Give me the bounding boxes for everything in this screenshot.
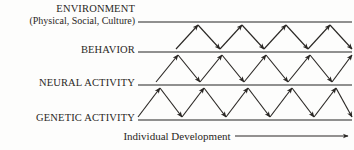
level-label-neural-activity: NEURAL ACTIVITY (39, 77, 135, 89)
arrow-up-environment-behavior-0 (176, 25, 198, 49)
arrow-down-behavior-neural-3 (310, 55, 332, 82)
level-label-environment-sublabel: (Physical, Social, Culture) (29, 15, 135, 27)
level-label-neural-activity-text: NEURAL ACTIVITY (39, 77, 135, 88)
arrow-down-neural-genetic-3 (292, 88, 314, 117)
arrow-up-neural-genetic-2 (226, 88, 248, 117)
arrow-down-neural-genetic-2 (248, 88, 270, 117)
level-label-environment-text: ENVIRONMENT (56, 3, 135, 14)
arrow-up-behavior-neural-3 (288, 55, 310, 82)
arrow-down-behavior-neural-0 (178, 55, 200, 82)
arrow-up-environment-behavior-2 (264, 25, 286, 49)
arrow-down-environment-behavior-1 (242, 25, 264, 49)
arrow-down-behavior-neural-1 (222, 55, 244, 82)
level-label-behavior: BEHAVIOR (81, 44, 135, 56)
axis-caption-text: Individual Development (119, 130, 234, 143)
arrow-up-environment-behavior-3 (308, 25, 330, 49)
arrow-down-environment-behavior-3 (330, 25, 352, 49)
arrow-up-behavior-neural-2 (244, 55, 266, 82)
level-label-behavior-text: BEHAVIOR (81, 44, 135, 55)
arrow-up-environment-behavior-1 (220, 25, 242, 49)
arrow-up-neural-genetic-3 (270, 88, 292, 117)
axis-caption: Individual Development (0, 129, 354, 142)
arrow-up-behavior-neural-4 (332, 55, 352, 82)
arrow-down-environment-behavior-2 (286, 25, 308, 49)
arrow-down-behavior-neural-2 (266, 55, 288, 82)
arrow-up-neural-genetic-1 (182, 88, 204, 117)
arrow-up-neural-genetic-0 (138, 88, 160, 117)
arrow-down-neural-genetic-0 (160, 88, 182, 117)
developmental-systems-diagram: ENVIRONMENT (Physical, Social, Culture) … (0, 0, 354, 150)
level-label-environment: ENVIRONMENT (Physical, Social, Culture) (29, 3, 135, 26)
level-label-genetic-activity: GENETIC ACTIVITY (36, 112, 135, 124)
arrow-down-neural-genetic-4 (336, 88, 352, 117)
arrow-up-behavior-neural-0 (156, 55, 178, 82)
bidirectional-arrows-group (138, 25, 352, 117)
level-label-genetic-activity-text: GENETIC ACTIVITY (36, 112, 135, 123)
arrow-down-environment-behavior-0 (198, 25, 220, 49)
arrow-up-neural-genetic-4 (314, 88, 336, 117)
arrow-down-neural-genetic-1 (204, 88, 226, 117)
arrow-up-behavior-neural-1 (200, 55, 222, 82)
